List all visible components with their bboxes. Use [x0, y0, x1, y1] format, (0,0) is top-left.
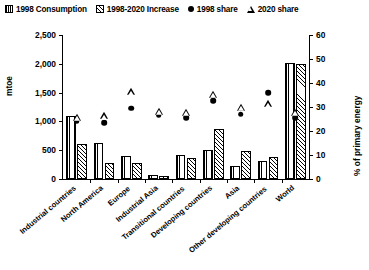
- bar-1998-2020-increase: [159, 176, 169, 179]
- legend-label: 1998-2020 Increase: [107, 5, 179, 14]
- marker-2020-share: [127, 88, 135, 95]
- vertical-stripe-square-icon: [5, 5, 13, 13]
- filled-circle-icon: [188, 6, 194, 12]
- bar-group: [254, 35, 281, 179]
- chart-legend: 1998 Consumption 1998-2020 Increase 1998…: [5, 2, 365, 16]
- legend-item-2020-share: 2020 share: [247, 5, 299, 14]
- bar-group: [282, 35, 309, 179]
- bar-1998-2020-increase: [214, 129, 224, 179]
- bar-1998-consumption: [285, 63, 295, 179]
- legend-item-1998-2020-increase: 1998-2020 Increase: [96, 5, 179, 14]
- y-axis-tick-label-left: 1,500: [35, 88, 56, 98]
- y-axis-tick-left: [59, 179, 63, 180]
- bar-group: [172, 35, 199, 179]
- bar-1998-2020-increase: [187, 158, 197, 179]
- bar-1998-consumption: [203, 150, 213, 179]
- bar-group: [227, 35, 254, 179]
- marker-2020-share: [100, 112, 108, 119]
- marker-2020-share: [73, 113, 81, 120]
- marker-2020-share: [155, 107, 163, 114]
- marker-1998-share: [101, 120, 107, 126]
- marker-1998-share: [211, 98, 217, 104]
- bar-1998-2020-increase: [77, 144, 87, 179]
- marker-2020-share: [291, 109, 299, 116]
- bar-1998-2020-increase: [105, 163, 115, 179]
- y-axis-tick-label-left: 0: [51, 174, 56, 184]
- marker-1998-share: [293, 115, 299, 121]
- y-axis-tick-label-right: 60: [316, 30, 325, 40]
- y-axis-tick-label-right: 50: [316, 54, 325, 64]
- y-axis-tick-right: [309, 107, 313, 108]
- bar-group: [63, 35, 90, 179]
- bar-group: [200, 35, 227, 179]
- y-axis-tick-right: [309, 59, 313, 60]
- y-axis-tick-right: [309, 131, 313, 132]
- bar-1998-consumption: [258, 161, 268, 179]
- legend-item-1998-consumption: 1998 Consumption: [5, 5, 87, 14]
- y-axis-tick-label-right: 30: [316, 102, 325, 112]
- y-axis-tick-label-right: 0: [316, 174, 321, 184]
- bar-group: [118, 35, 145, 179]
- legend-label: 1998 Consumption: [16, 5, 87, 14]
- marker-1998-share: [183, 115, 189, 121]
- y-axis-title-left: mtoe: [4, 76, 14, 96]
- marker-1998-share: [265, 90, 271, 96]
- y-axis-title-right: % of primary energy: [352, 95, 362, 176]
- x-axis-category-label: World: [274, 184, 296, 205]
- bar-1998-consumption: [66, 116, 76, 179]
- legend-label: 2020 share: [258, 5, 299, 14]
- y-axis-tick-label-left: 2,500: [35, 30, 56, 40]
- x-axis-category-label: Asia: [223, 184, 241, 201]
- y-axis-tick-label-left: 2,000: [35, 59, 56, 69]
- bar-1998-consumption: [94, 143, 104, 179]
- bar-1998-consumption: [176, 155, 186, 179]
- chart-container: 1998 Consumption 1998-2020 Increase 1998…: [0, 0, 369, 270]
- plot-area: 05001,0001,5002,0002,5000102030405060: [62, 35, 310, 180]
- marker-2020-share: [209, 91, 217, 98]
- marker-1998-share: [238, 111, 244, 117]
- bar-1998-consumption: [230, 166, 240, 179]
- y-axis-tick-label-left: 500: [42, 145, 56, 155]
- y-axis-tick-label-left: 1,000: [35, 116, 56, 126]
- diagonal-hatch-square-icon: [96, 5, 104, 13]
- marker-2020-share: [237, 104, 245, 111]
- marker-2020-share: [182, 109, 190, 116]
- legend-label: 1998 share: [197, 5, 238, 14]
- y-axis-tick-label-right: 40: [316, 78, 325, 88]
- x-axis-labels: Industrial countriesNorth AmericaEuropeI…: [62, 182, 308, 268]
- y-axis-tick-label-right: 10: [316, 150, 325, 160]
- y-axis-tick-right: [309, 35, 313, 36]
- bar-1998-consumption: [148, 175, 158, 179]
- y-axis-tick-right: [309, 179, 313, 180]
- open-triangle-icon: [247, 6, 255, 13]
- bar-1998-consumption: [121, 156, 131, 179]
- legend-item-1998-share: 1998 share: [188, 5, 238, 14]
- bar-1998-2020-increase: [132, 163, 142, 179]
- marker-1998-share: [129, 105, 135, 111]
- bar-group: [90, 35, 117, 179]
- bar-1998-2020-increase: [296, 64, 306, 179]
- y-axis-tick-right: [309, 155, 313, 156]
- y-axis-tick-right: [309, 83, 313, 84]
- bar-1998-2020-increase: [241, 151, 251, 179]
- bar-1998-2020-increase: [269, 157, 279, 179]
- marker-2020-share: [264, 100, 272, 107]
- bar-group: [145, 35, 172, 179]
- y-axis-tick-label-right: 20: [316, 126, 325, 136]
